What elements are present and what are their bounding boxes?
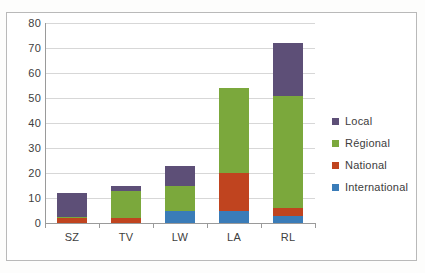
- x-tick-sz: [99, 223, 100, 228]
- legend-item-international[interactable]: International: [332, 176, 417, 198]
- bar-group-tv: [111, 23, 141, 223]
- legend-label: Régional: [345, 137, 390, 149]
- bar-stack: [111, 186, 141, 224]
- x-tick-label-la: LA: [227, 231, 241, 243]
- y-axis-tick-labels: 01020304050607080: [7, 23, 41, 223]
- legend-swatch-icon: [332, 162, 339, 169]
- bar-segment-rl-national: [273, 208, 303, 216]
- bar-segment-tv-rgional: [111, 191, 141, 219]
- x-tick-label-rl: RL: [281, 231, 296, 243]
- legend-label: International: [345, 181, 408, 193]
- x-tick-label-tv: TV: [119, 231, 134, 243]
- bar-stack: [57, 193, 87, 223]
- x-tick-la: [261, 223, 262, 228]
- bar-segment-rl-local: [273, 43, 303, 96]
- y-tick-label-60: 60: [11, 67, 41, 79]
- y-tick-label-50: 50: [11, 92, 41, 104]
- y-tick-label-70: 70: [11, 42, 41, 54]
- bar-stack: [165, 166, 195, 224]
- bar-segment-la-rgional: [219, 88, 249, 173]
- chart-figure: 01020304050607080 SZTVLWLARL LocalRégion…: [0, 0, 425, 273]
- x-tick-origin: [45, 223, 46, 228]
- legend-swatch-icon: [332, 118, 339, 125]
- x-tick-rl: [315, 223, 316, 228]
- chart-legend: LocalRégionalNationalInternational: [332, 110, 417, 198]
- legend-item-national[interactable]: National: [332, 154, 417, 176]
- y-tick-label-40: 40: [11, 117, 41, 129]
- legend-label: Local: [345, 115, 372, 127]
- bar-group-lw: [165, 23, 195, 223]
- legend-swatch-icon: [332, 140, 339, 147]
- legend-label: National: [345, 159, 387, 171]
- y-tick-label-10: 10: [11, 192, 41, 204]
- bar-group-rl: [273, 23, 303, 223]
- bar-segment-sz-local: [57, 193, 87, 217]
- bar-group-sz: [57, 23, 87, 223]
- y-tick-label-20: 20: [11, 167, 41, 179]
- x-tick-lw: [207, 223, 208, 228]
- y-tick-label-0: 0: [11, 217, 41, 229]
- bar-stack: [219, 88, 249, 223]
- chart-frame: 01020304050607080 SZTVLWLARL LocalRégion…: [6, 12, 417, 261]
- bar-segment-la-international: [219, 211, 249, 224]
- x-tick-label-sz: SZ: [65, 231, 80, 243]
- y-tick-label-80: 80: [11, 17, 41, 29]
- x-tick-tv: [153, 223, 154, 228]
- y-tick-label-30: 30: [11, 142, 41, 154]
- bar-segment-lw-international: [165, 211, 195, 224]
- bar-segment-rl-international: [273, 216, 303, 224]
- legend-swatch-icon: [332, 184, 339, 191]
- bar-stack: [273, 43, 303, 223]
- legend-item-local[interactable]: Local: [332, 110, 417, 132]
- bar-segment-rl-rgional: [273, 96, 303, 209]
- bars-layer: [45, 23, 315, 223]
- bar-segment-lw-rgional: [165, 186, 195, 211]
- legend-item-rgional[interactable]: Régional: [332, 132, 417, 154]
- x-tick-label-lw: LW: [172, 231, 188, 243]
- bar-segment-la-national: [219, 173, 249, 211]
- x-axis-line: [45, 223, 316, 224]
- bar-group-la: [219, 23, 249, 223]
- bar-segment-lw-local: [165, 166, 195, 186]
